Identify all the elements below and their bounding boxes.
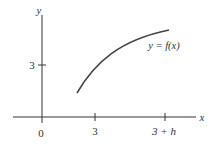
x-tick-label-3-plus-h: 3 + h [151,125,176,137]
function-graph-figure: y x 3 0 3 3 + h y = f(x) [0,0,215,144]
y-tick-label-3: 3 [29,59,35,71]
curve-label: y = f(x) [147,40,180,52]
x-axis-label: x [199,111,205,123]
y-axis-label: y [36,4,42,16]
origin-label: 0 [38,127,44,139]
x-tick-label-3: 3 [92,125,98,137]
graph-canvas: y x 3 0 3 3 + h y = f(x) [0,0,215,144]
